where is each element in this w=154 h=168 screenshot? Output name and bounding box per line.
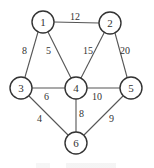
node-1: 1 <box>32 11 54 33</box>
node-4-label: 4 <box>73 82 79 94</box>
weight-3-6: 4 <box>37 113 42 124</box>
weighted-graph: 12 8 5 15 20 6 10 4 8 9 1 2 3 4 5 6 <box>0 0 154 168</box>
weight-2-5: 20 <box>120 45 130 56</box>
node-1-label: 1 <box>40 16 46 28</box>
weight-2-4: 15 <box>83 45 93 56</box>
edge-5-6 <box>84 96 123 135</box>
node-5: 5 <box>120 77 142 99</box>
node-6: 6 <box>65 132 87 154</box>
edge-1-4 <box>48 32 71 78</box>
weight-1-2: 12 <box>70 11 80 22</box>
node-3-label: 3 <box>18 82 24 94</box>
node-6-label: 6 <box>73 137 79 149</box>
edge-1-2 <box>54 22 99 23</box>
node-4: 4 <box>65 77 87 99</box>
weight-1-3: 8 <box>22 45 27 56</box>
node-2: 2 <box>99 12 121 34</box>
weight-5-6: 9 <box>109 113 114 124</box>
node-5-label: 5 <box>128 82 134 94</box>
weight-3-4: 6 <box>44 91 49 102</box>
weight-4-5: 10 <box>92 91 102 102</box>
weight-4-6: 8 <box>79 108 84 119</box>
figure-caption-cutoff <box>36 163 116 168</box>
node-3: 3 <box>10 77 32 99</box>
weight-1-4: 5 <box>46 45 51 56</box>
node-2-label: 2 <box>107 17 113 29</box>
